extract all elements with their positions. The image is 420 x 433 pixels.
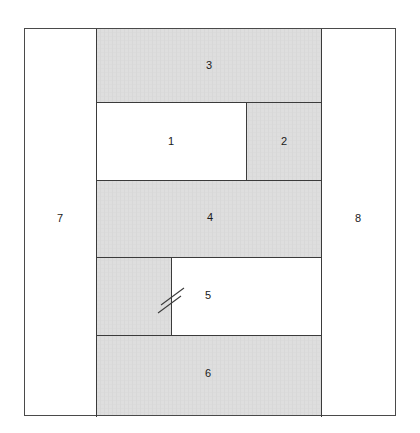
region-5-stub [96, 257, 171, 335]
region-4-label: 4 [207, 211, 213, 223]
region-8-label: 8 [355, 212, 361, 224]
region-1-label: 1 [168, 135, 174, 147]
diagram-canvas: 12345678 [0, 0, 420, 433]
region-5-label: 5 [205, 289, 211, 301]
region-6-label: 6 [205, 367, 211, 379]
region-3-label: 3 [206, 59, 212, 71]
region-5 [171, 257, 321, 335]
region-2-label: 2 [281, 135, 287, 147]
region-7-label: 7 [57, 212, 63, 224]
sectioned-rectangle-diagram: 12345678 [0, 0, 420, 433]
